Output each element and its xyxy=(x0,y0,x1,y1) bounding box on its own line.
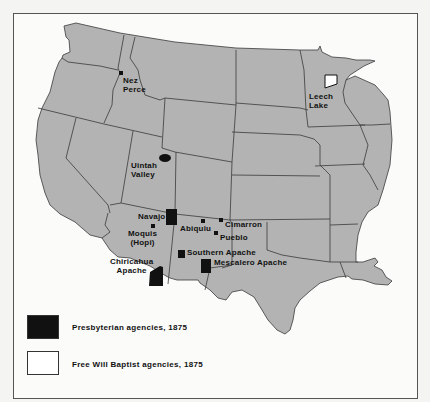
label-chiricahua-apache: ChiricahuaApache xyxy=(110,257,153,275)
abiquiu-marker xyxy=(201,219,205,223)
legend-swatch-free-will-baptist xyxy=(27,351,59,375)
label-abiquiu: Abiquiu xyxy=(180,224,211,233)
map-svg xyxy=(0,0,430,402)
label-cimarron: Cimarron xyxy=(225,220,262,229)
label-leech-lake: LeechLake xyxy=(309,92,333,110)
southern-apache-marker xyxy=(178,250,185,258)
label-mescalero-apache: Mescalero Apache xyxy=(214,258,287,267)
navajo-marker xyxy=(166,209,177,225)
label-nez-perce: NezPerce xyxy=(123,76,146,94)
pueblo-marker xyxy=(214,231,218,235)
label-southern-apache: Southern Apache xyxy=(187,248,256,257)
legend-label-presbyterian: Presbyterian agencies, 1875 xyxy=(72,323,187,332)
mescalero-apache-marker xyxy=(201,259,211,273)
cimarron-marker xyxy=(219,218,223,222)
legend-swatch-presbyterian xyxy=(27,315,59,339)
moquis-marker xyxy=(151,224,155,228)
us-landmass xyxy=(36,23,392,334)
label-uintah-valley: UintahValley xyxy=(131,161,157,179)
label-moquis: Moquis(Hopi) xyxy=(128,229,157,247)
label-navajo: Navajo xyxy=(138,212,165,221)
label-pueblo: Pueblo xyxy=(220,233,248,242)
legend-label-free-will-baptist: Free Will Baptist agencies, 1875 xyxy=(72,360,203,369)
uintah-valley-marker xyxy=(159,154,171,162)
nez-perce-marker xyxy=(119,71,123,75)
